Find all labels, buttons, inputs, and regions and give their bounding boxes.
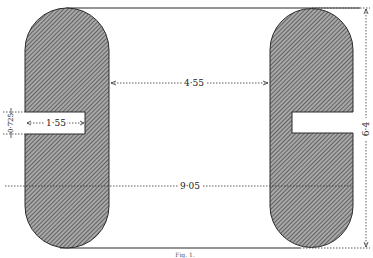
outer-span-label: 9·05 — [180, 181, 200, 191]
right-pole — [270, 9, 353, 248]
inner-gap-label: 4·55 — [184, 78, 204, 88]
slot-depth-label: 1·55 — [46, 118, 66, 128]
height-label: 6·4 — [361, 122, 371, 137]
diagram: 4·55 9·05 6·4 1·55 0·725 Fig. 1. — [0, 0, 373, 258]
figure-caption: Fig. 1. — [175, 251, 195, 258]
slot-width-label: 0·725 — [7, 113, 15, 133]
